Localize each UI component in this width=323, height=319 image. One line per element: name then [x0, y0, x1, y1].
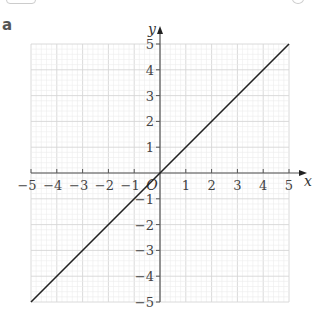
- x-tick-label: 2: [207, 178, 215, 193]
- y-tick-label: −2: [135, 218, 154, 233]
- x-tick-label: −1: [121, 178, 140, 193]
- y-tick-label: 1: [146, 140, 154, 155]
- x-tick-label: 5: [285, 178, 293, 193]
- x-tick-label: −2: [95, 178, 114, 193]
- x-tick-label: −4: [43, 178, 62, 193]
- x-tick-label: −3: [69, 178, 88, 193]
- y-axis-arrow-icon: [157, 26, 163, 34]
- y-tick-label: −4: [135, 269, 154, 284]
- y-tick-label: 3: [146, 89, 154, 104]
- y-tick-label: −5: [135, 295, 154, 310]
- y-tick-label: 5: [146, 37, 154, 52]
- y-tick-label: −1: [135, 192, 154, 207]
- x-tick-label: −5: [17, 178, 36, 193]
- chart: −5−4−3−2−112345−5−4−3−2−112345Oxy: [0, 0, 323, 319]
- x-tick-label: 3: [233, 178, 241, 193]
- y-tick-label: −3: [135, 243, 154, 258]
- x-tick-label: 4: [259, 178, 267, 193]
- y-axis-label: y: [147, 21, 157, 37]
- y-tick-label: 2: [146, 114, 154, 129]
- y-tick-label: 4: [146, 63, 154, 78]
- x-axis-label: x: [304, 173, 312, 189]
- x-tick-label: 1: [182, 178, 190, 193]
